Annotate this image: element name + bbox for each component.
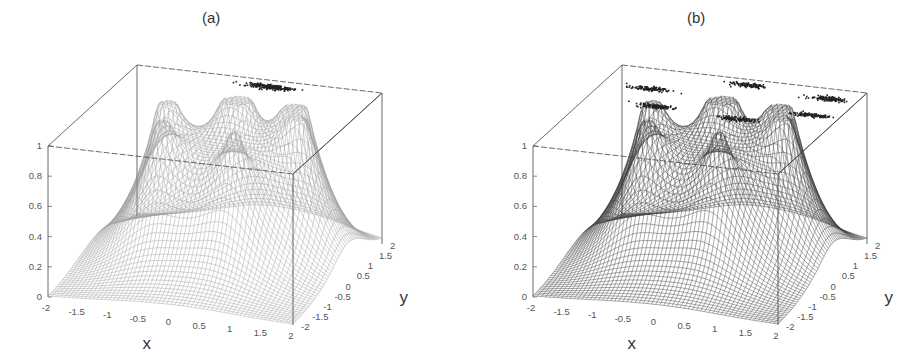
svg-text:-2: -2 [301,321,309,332]
svg-text:0.4: 0.4 [514,231,527,242]
y-axis-label: y [885,288,894,307]
svg-text:2: 2 [288,330,293,341]
svg-text:-0.5: -0.5 [130,313,146,324]
svg-text:0: 0 [346,281,351,292]
panel-a: (a) 00.20.40.60.81-2-1.5-1-0.500.511.52x… [0,0,455,352]
svg-text:-1.5: -1.5 [68,306,84,317]
svg-text:0.8: 0.8 [514,170,527,181]
surface-plot-b: 00.20.40.60.81-2-1.5-1-0.500.511.52x-2-1… [485,0,910,352]
panel-b: (b) 00.20.40.60.81-2-1.5-1-0.500.511.52x… [485,0,910,352]
z-axis: 00.20.40.60.81 [514,140,537,302]
z-axis: 00.20.40.60.81 [29,140,52,302]
svg-text:-0.5: -0.5 [615,313,631,324]
x-axis-label: x [628,334,637,352]
svg-text:2: 2 [390,240,395,251]
x-axis: -2-1.5-1-0.500.511.52x [527,302,779,352]
svg-text:0.4: 0.4 [29,231,42,242]
x-axis: -2-1.5-1-0.500.511.52x [42,302,294,352]
svg-text:-1: -1 [103,309,111,320]
svg-text:1: 1 [522,140,527,151]
svg-text:0.5: 0.5 [357,270,370,281]
svg-text:-2: -2 [527,302,535,313]
svg-text:0.2: 0.2 [29,261,42,272]
svg-text:0.5: 0.5 [842,270,855,281]
svg-text:0: 0 [831,281,836,292]
surface-mesh [48,96,382,324]
svg-text:-2: -2 [42,302,50,313]
y-axis: -2-1.5-1-0.500.511.52y [301,240,409,332]
svg-text:1: 1 [853,260,858,271]
svg-text:0.5: 0.5 [678,320,691,331]
svg-text:-1: -1 [588,309,596,320]
svg-text:2: 2 [875,240,880,251]
svg-text:2: 2 [773,330,778,341]
svg-text:1.5: 1.5 [254,327,267,338]
svg-text:1: 1 [712,323,717,334]
svg-text:-1: -1 [323,301,331,312]
svg-text:0: 0 [37,291,42,302]
svg-text:0.5: 0.5 [193,320,206,331]
svg-text:1.5: 1.5 [379,250,392,261]
svg-text:-0.5: -0.5 [334,291,350,302]
svg-text:-1.5: -1.5 [553,306,569,317]
svg-text:-1.5: -1.5 [797,311,813,322]
svg-text:0: 0 [522,291,527,302]
svg-text:-1.5: -1.5 [312,311,328,322]
svg-text:0.2: 0.2 [514,261,527,272]
surface-mesh [533,96,867,324]
svg-text:0: 0 [651,316,656,327]
svg-text:0: 0 [166,316,171,327]
svg-text:-1: -1 [808,301,816,312]
svg-text:1.5: 1.5 [739,327,752,338]
svg-text:0.6: 0.6 [514,200,527,211]
svg-text:1: 1 [368,260,373,271]
x-axis-label: x [143,334,152,352]
svg-text:1: 1 [227,323,232,334]
svg-text:0.8: 0.8 [29,170,42,181]
y-axis: -2-1.5-1-0.500.511.52y [786,240,894,332]
y-axis-label: y [400,288,409,307]
surface-plot-a: 00.20.40.60.81-2-1.5-1-0.500.511.52x-2-1… [0,0,455,352]
svg-text:-0.5: -0.5 [819,291,835,302]
svg-text:-2: -2 [786,321,794,332]
svg-text:0.6: 0.6 [29,200,42,211]
svg-text:1: 1 [37,140,42,151]
svg-text:1.5: 1.5 [864,250,877,261]
